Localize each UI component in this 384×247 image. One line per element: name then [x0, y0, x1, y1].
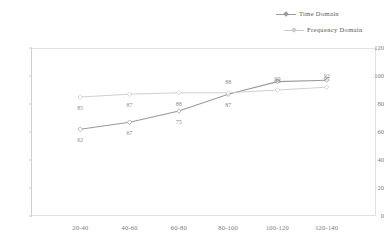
legend-label-frequency-domain: Frequency Domain: [307, 27, 363, 34]
data-point-marker: [324, 85, 329, 90]
legend-line-marker-icon: [284, 26, 304, 34]
data-label: 62: [77, 137, 83, 143]
data-label: 87: [225, 102, 231, 108]
data-point-marker: [78, 95, 83, 100]
data-label: 88: [225, 79, 231, 85]
x-tick-label: 80-100: [218, 225, 238, 232]
x-tick-label: 120-140: [315, 225, 338, 232]
data-point-marker: [177, 109, 182, 114]
line-chart: Time Domain Frequency Domain 02040608010…: [0, 0, 384, 247]
data-label: 75: [176, 119, 182, 125]
data-label: 87: [127, 102, 133, 108]
x-tick-label: 60-80: [171, 225, 187, 232]
data-label: 85: [77, 105, 83, 111]
series-line: [80, 87, 326, 97]
data-point-marker: [127, 92, 132, 97]
series-line: [80, 80, 326, 129]
data-point-marker: [127, 120, 132, 125]
data-label: 88: [176, 101, 182, 107]
x-tick-label: 20-40: [72, 225, 88, 232]
data-label: 90: [274, 76, 280, 82]
x-tick-label: 100-120: [266, 225, 289, 232]
data-label: 67: [127, 130, 133, 136]
data-point-marker: [78, 127, 83, 132]
legend-item-frequency-domain[interactable]: Frequency Domain: [276, 22, 384, 38]
chart-legend: Time Domain Frequency Domain: [276, 6, 384, 38]
x-tick-label: 40-60: [121, 225, 137, 232]
legend-item-time-domain[interactable]: Time Domain: [276, 6, 384, 22]
legend-line-marker-icon: [276, 10, 296, 18]
data-point-marker: [177, 91, 182, 96]
data-point-marker: [275, 88, 280, 93]
data-label: 92: [324, 73, 330, 79]
legend-label-time-domain: Time Domain: [299, 11, 339, 18]
